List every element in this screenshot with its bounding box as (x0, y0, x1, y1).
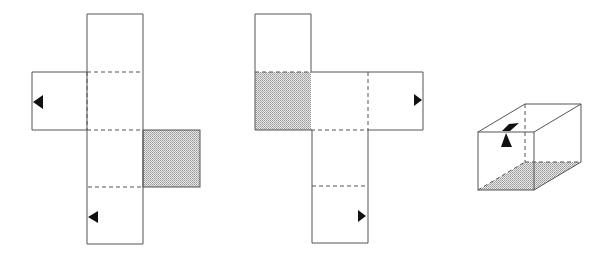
cube-net-1 (32, 14, 200, 244)
box-3d (478, 104, 581, 190)
left-arrow-icon (88, 211, 98, 223)
cube-net-2 (255, 14, 423, 243)
shaded-face (143, 130, 200, 187)
diagram-canvas (0, 0, 607, 258)
right-flap (311, 72, 423, 130)
left-arrow-icon (33, 95, 43, 109)
shaded-face (255, 72, 311, 130)
shaded-bottom-face (478, 162, 581, 190)
arrow-flap-icon (502, 123, 519, 131)
fold-lines (87, 72, 143, 187)
top-face (478, 104, 581, 132)
right-arrow-icon (358, 210, 366, 222)
arrow-marker-icon (501, 133, 512, 147)
right-arrow-icon (414, 94, 422, 106)
